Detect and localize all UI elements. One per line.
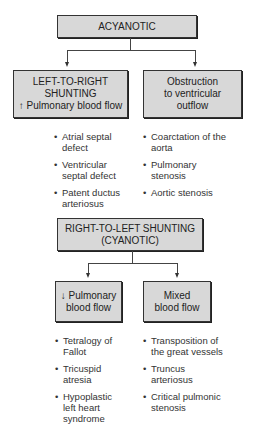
arrow-down-icon xyxy=(86,273,90,278)
mixed-blood-list: Transposition of the great vessels Trunc… xyxy=(143,335,223,419)
node-text: LEFT-TO-RIGHT xyxy=(33,76,108,88)
mixed-blood-node: Mixed blood flow xyxy=(143,281,211,322)
connector xyxy=(88,263,89,273)
node-text: to ventricular xyxy=(164,88,221,100)
list-item: Tetralogy of Fallot xyxy=(55,335,115,357)
node-text: ↓ Pulmonary xyxy=(61,290,117,302)
connector xyxy=(67,50,68,62)
arrow-down-icon xyxy=(193,62,197,67)
node-text: blood flow xyxy=(66,302,111,314)
connector xyxy=(132,251,133,263)
list-item: Truncus arteriosus xyxy=(143,363,223,385)
decreased-pulmonary-list: Tetralogy of Fallot Tricuspid atresia Hy… xyxy=(55,335,115,429)
node-text: outflow xyxy=(177,100,209,112)
connector xyxy=(177,263,178,273)
node-text: ↑ Pulmonary blood flow xyxy=(19,100,122,112)
connector xyxy=(195,50,196,62)
list-item: Critical pulmonic stenosis xyxy=(143,391,223,413)
list-item: Atrial septal defect xyxy=(54,131,124,153)
list-item: Tricuspid atresia xyxy=(55,363,115,385)
cyanotic-title: RIGHT-TO-LEFT SHUNTING xyxy=(65,223,195,235)
node-text: Mixed xyxy=(164,290,191,302)
list-item: Transposition of the great vessels xyxy=(143,335,223,357)
acyanotic-node: ACYANOTIC xyxy=(57,15,197,38)
node-text: Obstruction xyxy=(167,76,218,88)
arrow-down-icon xyxy=(175,273,179,278)
obstruction-list: Coarctation of the aorta Pulmonary steno… xyxy=(143,131,228,204)
node-text: SHUNTING xyxy=(44,88,96,100)
node-text: blood flow xyxy=(154,302,199,314)
cyanotic-subtitle: (CYANOTIC) xyxy=(101,235,159,247)
arrow-down-icon xyxy=(65,62,69,67)
list-item: Aortic stenosis xyxy=(143,187,228,198)
acyanotic-title: ACYANOTIC xyxy=(98,21,156,33)
obstruction-node: Obstruction to ventricular outflow xyxy=(143,70,242,118)
list-item: Pulmonary stenosis xyxy=(143,159,228,181)
list-item: Coarctation of the aorta xyxy=(143,131,228,153)
left-to-right-node: LEFT-TO-RIGHT SHUNTING ↑ Pulmonary blood… xyxy=(13,70,128,118)
connector xyxy=(88,263,178,264)
list-item: Ventricular septal defect xyxy=(54,159,124,181)
connector xyxy=(130,38,131,50)
cyanotic-node: RIGHT-TO-LEFT SHUNTING (CYANOTIC) xyxy=(57,218,203,251)
list-item: Patent ductus arteriosus xyxy=(54,187,124,209)
left-to-right-list: Atrial septal defect Ventricular septal … xyxy=(54,131,124,215)
decreased-pulmonary-node: ↓ Pulmonary blood flow xyxy=(55,281,122,322)
connector xyxy=(67,50,196,51)
list-item: Hypoplastic left heart syndrome xyxy=(55,391,115,424)
